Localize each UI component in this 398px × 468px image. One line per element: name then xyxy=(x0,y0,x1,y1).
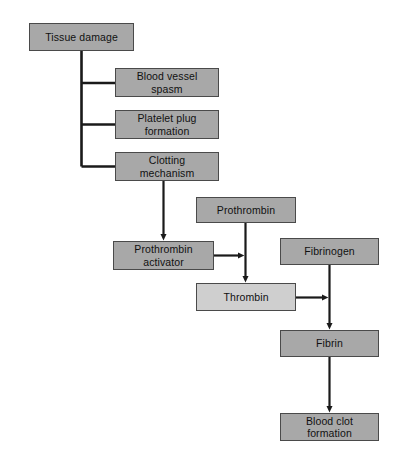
node-tissue-damage[interactable]: Tissue damage xyxy=(29,23,134,51)
node-label: Clotting mechanism xyxy=(140,154,195,179)
node-label: Prothrombin xyxy=(217,204,275,217)
node-label: Blood clot formation xyxy=(306,415,353,440)
node-blood-vessel-spasm[interactable]: Blood vessel spasm xyxy=(115,68,219,97)
node-platelet-plug-formation[interactable]: Platelet plug formation xyxy=(115,110,219,139)
node-label: Fibrinogen xyxy=(304,245,355,258)
node-clotting-mechanism[interactable]: Clotting mechanism xyxy=(115,152,219,181)
node-label: Blood vessel spasm xyxy=(137,70,198,95)
node-blood-clot-formation[interactable]: Blood clot formation xyxy=(280,413,379,441)
node-prothrombin[interactable]: Prothrombin xyxy=(196,197,296,223)
node-thrombin[interactable]: Thrombin xyxy=(196,283,296,311)
flowchart-diagram: Tissue damage Blood vessel spasm Platele… xyxy=(0,0,398,468)
node-label: Thrombin xyxy=(223,291,268,304)
edge-tissue-damage-branches xyxy=(82,51,116,167)
node-prothrombin-activator[interactable]: Prothrombin activator xyxy=(113,241,214,270)
node-label: Tissue damage xyxy=(45,31,118,44)
node-label: Platelet plug formation xyxy=(137,112,196,137)
node-fibrin[interactable]: Fibrin xyxy=(280,330,379,357)
node-label: Fibrin xyxy=(316,337,343,350)
node-fibrinogen[interactable]: Fibrinogen xyxy=(280,238,379,265)
node-label: Prothrombin activator xyxy=(134,243,192,268)
